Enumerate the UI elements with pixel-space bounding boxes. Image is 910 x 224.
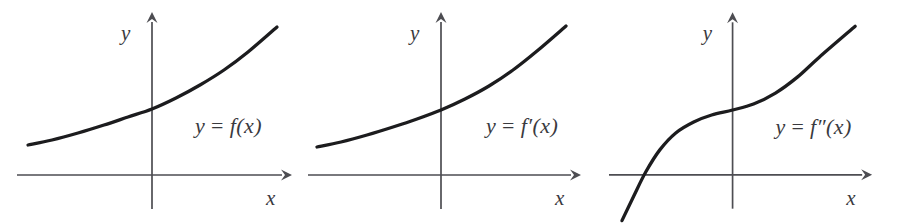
axes-group-panel-1 [17, 12, 292, 209]
y-axis-label-panel-2: y [408, 21, 420, 45]
curve-label-panel-2: y = f′(x) [484, 113, 558, 138]
x-axis-label-panel-2: x [554, 186, 565, 210]
y-axis-label-panel-3: y [701, 21, 713, 45]
graph-panel-f-prime: y x y = f′(x) [303, 0, 606, 224]
y-axis-label-panel-1: y [119, 21, 131, 45]
x-axis-label-panel-3: x [845, 186, 856, 210]
y-axis-arrowhead [727, 12, 738, 23]
axes-group-panel-2 [308, 12, 581, 209]
y-axis-arrowhead [436, 12, 447, 23]
x-axis-arrowhead [281, 170, 292, 181]
graph-panel-f-double-prime: y x y = f″(x) [606, 0, 909, 224]
x-axis-arrowhead [861, 169, 872, 180]
x-axis-arrowhead [570, 170, 581, 181]
y-axis-arrowhead [147, 12, 158, 23]
figure-root: y x y = f(x) y x y = f′(x) [0, 0, 910, 224]
graph-panel-f: y x y = f(x) [0, 0, 303, 224]
x-axis-label-panel-1: x [265, 186, 276, 210]
curve-label-panel-3: y = f″(x) [773, 114, 851, 139]
curve-label-panel-1: y = f(x) [193, 113, 262, 138]
axes-group-panel-3 [609, 12, 872, 208]
